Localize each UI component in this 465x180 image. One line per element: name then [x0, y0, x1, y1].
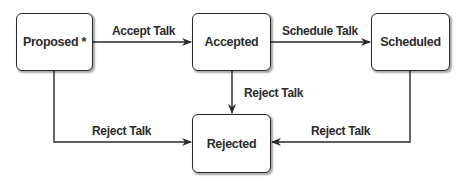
state-scheduled: Scheduled	[371, 13, 450, 71]
label-accept-talk: Accept Talk	[112, 24, 175, 38]
state-rejected: Rejected	[192, 114, 271, 173]
label-reject-from-accepted: Reject Talk	[244, 86, 303, 100]
label-schedule-talk: Schedule Talk	[282, 24, 358, 38]
label-reject-from-proposed: Reject Talk	[92, 124, 151, 138]
state-diagram: Proposed * Accepted Scheduled Rejected A…	[0, 0, 465, 180]
state-accepted: Accepted	[192, 13, 271, 71]
state-proposed: Proposed *	[16, 13, 93, 71]
label-reject-from-scheduled: Reject Talk	[311, 124, 370, 138]
